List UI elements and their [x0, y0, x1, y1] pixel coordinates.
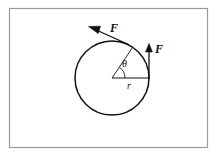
physics-diagram-canvas — [0, 0, 218, 157]
figure-container: F F θ r — [0, 0, 218, 157]
radius-label: r — [127, 81, 131, 91]
figure-frame — [10, 9, 208, 148]
vertical-force-label: F — [155, 43, 163, 55]
angle-label: θ — [122, 59, 127, 69]
tangential-force-label: F — [110, 22, 118, 34]
